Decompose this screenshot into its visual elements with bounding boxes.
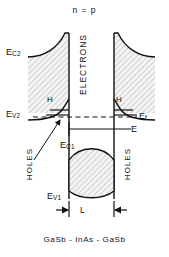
label-holes-right: HOLES [124, 148, 132, 180]
label-well-width: L [80, 206, 85, 215]
label-holes-left: HOLES [26, 148, 34, 180]
label-fermi-level: Ef [139, 112, 147, 122]
label-ev1: EV1 [47, 192, 61, 202]
label-hole-gas-right: H [116, 96, 122, 104]
chart-title: n = p [0, 6, 169, 15]
label-ev2: EV2 [6, 110, 20, 120]
holes-leader-arrow [34, 120, 60, 160]
label-hole-gas-left: H [47, 96, 53, 104]
label-electrons: ELECTRONS [79, 34, 88, 95]
label-confined-subband: E [131, 125, 137, 134]
inas-valence-band [69, 149, 114, 198]
figure-caption: GaSb - InAs - GaSb [0, 236, 169, 244]
label-ec1: EC1 [60, 141, 75, 151]
label-ec2: EC2 [6, 48, 21, 58]
